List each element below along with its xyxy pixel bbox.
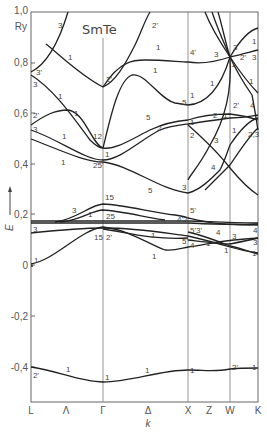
svg-text:15: 15 bbox=[94, 233, 103, 242]
svg-text:3: 3 bbox=[214, 136, 219, 145]
svg-text:3: 3 bbox=[252, 53, 257, 62]
y-tick-0.4: 0,4 bbox=[14, 159, 28, 170]
svg-text:3: 3 bbox=[233, 43, 238, 52]
svg-text:3: 3 bbox=[33, 125, 38, 134]
svg-text:1: 1 bbox=[88, 210, 93, 219]
svg-text:2': 2' bbox=[233, 101, 239, 110]
svg-text:1: 1 bbox=[252, 363, 257, 372]
x-tick-Delta: Δ bbox=[145, 405, 152, 416]
svg-text:1: 1 bbox=[62, 132, 67, 141]
y-tick-neg0.4: -0,4 bbox=[11, 362, 29, 373]
y-tick-0.8: 0,8 bbox=[14, 57, 28, 68]
svg-text:3: 3 bbox=[58, 21, 63, 30]
band-annotations: 3 1 3' 3 1 1 2' 3 1 12 25' 1 15 3 1 25 3… bbox=[33, 21, 260, 382]
svg-text:1: 1 bbox=[105, 150, 110, 159]
svg-text:5: 5 bbox=[182, 98, 187, 107]
svg-text:1: 1 bbox=[105, 373, 110, 382]
svg-text:2': 2' bbox=[240, 53, 246, 62]
svg-text:2,3: 2,3 bbox=[248, 130, 260, 139]
y-tick-0.6: 0,6 bbox=[14, 108, 28, 119]
svg-text:3: 3 bbox=[253, 238, 258, 247]
svg-text:5': 5' bbox=[182, 237, 188, 246]
svg-text:1: 1 bbox=[61, 158, 66, 167]
x-axis-label: k bbox=[146, 418, 152, 429]
svg-text:2': 2' bbox=[232, 363, 238, 372]
y-tick-neg0.2: -0,2 bbox=[11, 311, 29, 322]
svg-text:3: 3 bbox=[232, 232, 237, 241]
svg-text:4': 4' bbox=[190, 48, 196, 57]
svg-text:5'3': 5'3' bbox=[190, 226, 202, 235]
y-axis-label: E bbox=[4, 224, 15, 231]
x-tick-Gamma: Γ bbox=[100, 405, 106, 416]
svg-text:4'2': 4'2' bbox=[177, 215, 189, 224]
svg-text:1: 1 bbox=[58, 92, 63, 101]
svg-text:1': 1' bbox=[223, 111, 229, 120]
chart-title: SmTe bbox=[82, 22, 117, 37]
svg-text:25: 25 bbox=[106, 212, 115, 221]
svg-text:3: 3 bbox=[33, 225, 38, 234]
svg-text:4: 4 bbox=[211, 163, 216, 172]
svg-text:1: 1 bbox=[210, 79, 215, 88]
svg-text:3': 3' bbox=[36, 68, 42, 77]
y-tick-0: 0 bbox=[22, 260, 28, 271]
x-tick-W: W bbox=[225, 405, 235, 416]
svg-text:12: 12 bbox=[93, 132, 102, 141]
band-structure-chart: 1,0 0,8 0,6 0,4 0,2 0 -0,2 -0,4 Ry SmTe … bbox=[0, 0, 267, 435]
svg-text:4: 4 bbox=[253, 226, 258, 235]
svg-text:3: 3 bbox=[72, 206, 77, 215]
svg-text:1: 1 bbox=[206, 239, 211, 248]
x-tick-X: X bbox=[185, 405, 192, 416]
svg-text:1: 1 bbox=[34, 256, 39, 265]
energy-arrowhead-icon bbox=[8, 186, 12, 192]
svg-text:3: 3 bbox=[214, 50, 219, 59]
svg-text:1: 1 bbox=[68, 53, 73, 62]
svg-text:4: 4 bbox=[250, 101, 255, 110]
svg-text:1: 1 bbox=[231, 60, 236, 69]
svg-text:1: 1 bbox=[232, 126, 237, 135]
svg-text:2': 2' bbox=[33, 371, 39, 380]
x-tick-K: K bbox=[255, 405, 262, 416]
svg-text:1: 1 bbox=[190, 118, 195, 127]
svg-text:2': 2' bbox=[152, 21, 158, 30]
svg-text:1: 1 bbox=[249, 77, 254, 86]
svg-text:1: 1 bbox=[252, 37, 257, 46]
svg-text:1: 1 bbox=[66, 365, 71, 374]
svg-text:15: 15 bbox=[105, 193, 114, 202]
y-ticks bbox=[31, 63, 35, 367]
svg-text:1: 1 bbox=[151, 231, 156, 240]
y-tick-0.2: 0,2 bbox=[14, 209, 28, 220]
svg-text:2: 2 bbox=[213, 111, 218, 120]
svg-text:25': 25' bbox=[93, 161, 104, 170]
svg-text:1: 1 bbox=[190, 91, 195, 100]
svg-text:1: 1 bbox=[224, 246, 229, 255]
y-unit: Ry bbox=[15, 21, 27, 32]
svg-text:1: 1 bbox=[153, 66, 158, 75]
svg-text:2': 2' bbox=[33, 111, 39, 120]
plot-frame bbox=[31, 12, 258, 402]
bands bbox=[31, 12, 258, 382]
svg-text:1: 1 bbox=[252, 249, 257, 258]
svg-text:2: 2 bbox=[190, 131, 195, 140]
x-tick-L: L bbox=[28, 405, 34, 416]
x-tick-Z: Z bbox=[206, 405, 212, 416]
svg-text:4: 4 bbox=[190, 241, 195, 250]
svg-text:1: 1 bbox=[74, 109, 79, 118]
svg-text:2': 2' bbox=[106, 233, 112, 242]
y-tick-1.0: 1,0 bbox=[14, 5, 28, 16]
svg-text:3: 3 bbox=[182, 183, 187, 192]
svg-text:1: 1 bbox=[190, 366, 195, 375]
svg-text:3: 3 bbox=[33, 80, 38, 89]
svg-text:5: 5 bbox=[146, 113, 151, 122]
svg-text:5: 5 bbox=[148, 186, 153, 195]
svg-text:1: 1 bbox=[152, 252, 157, 261]
svg-text:1: 1 bbox=[156, 43, 161, 52]
svg-text:2: 2 bbox=[157, 124, 162, 133]
svg-text:2': 2' bbox=[106, 75, 112, 84]
svg-text:1: 1 bbox=[145, 366, 150, 375]
svg-text:5': 5' bbox=[190, 206, 196, 215]
x-tick-Lambda: Λ bbox=[63, 405, 70, 416]
svg-text:4: 4 bbox=[216, 228, 221, 237]
